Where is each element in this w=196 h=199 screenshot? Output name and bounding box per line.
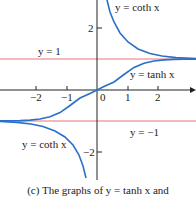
label-y-neg1: y = −1	[130, 126, 159, 138]
tick-y-m2: −2	[83, 146, 95, 158]
label-coth-bottom: y = coth x	[22, 138, 67, 150]
figure-caption: (c) The graphs of y = tanh x and	[0, 184, 196, 196]
tick-x-1: 1	[125, 91, 131, 103]
tick-x-m2: −2	[30, 91, 42, 103]
label-y-1: y = 1	[38, 45, 61, 57]
tick-y-2: 2	[88, 22, 94, 34]
x-axis-arrow-icon	[190, 87, 196, 93]
tick-x-2: 2	[155, 91, 161, 103]
label-tanh: y = tanh x	[130, 68, 175, 80]
tick-x-m1: −1	[61, 91, 73, 103]
hyperbolic-chart: y = coth x y = 1 y = tanh x y = −1 y = c…	[0, 0, 196, 199]
label-coth-top: y = coth x	[115, 1, 160, 13]
tick-x-0: 0	[100, 91, 106, 103]
